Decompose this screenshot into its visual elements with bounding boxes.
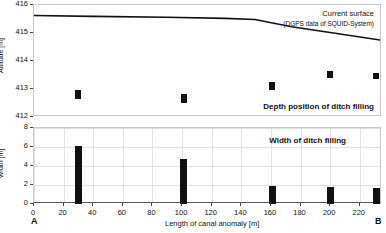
y-tickmark: [30, 184, 33, 185]
x-tick-label: 200: [315, 208, 343, 217]
x-tick-label: 180: [286, 208, 314, 217]
x-tick-label: 20: [49, 208, 77, 217]
annotation-depth-position: Depth position of ditch filling: [263, 102, 374, 111]
grid-line-vertical: [152, 128, 153, 202]
x-tick-label: 160: [256, 208, 284, 217]
grid-line-vertical: [123, 128, 124, 202]
x-tick-label: 120: [197, 208, 225, 217]
x-tick-label: 220: [345, 208, 373, 217]
bar: [269, 186, 276, 204]
x-tickmark: [240, 203, 241, 206]
x-tickmark: [270, 203, 271, 206]
x-tickmark: [181, 203, 182, 206]
y-tickmark: [30, 88, 33, 89]
y-tick-label: 4: [6, 160, 28, 169]
grid-line-vertical: [212, 128, 213, 202]
x-tickmark: [211, 203, 212, 206]
endpoint-label-a: A: [31, 216, 38, 226]
depth-marker: [373, 73, 379, 80]
grid-line-horizontal: [34, 166, 380, 167]
annotation-dgps-source: (DGPS data of SQUID-System): [283, 20, 374, 27]
bar: [327, 187, 334, 204]
y-tick-label: 0: [6, 198, 28, 207]
bar: [373, 188, 380, 204]
depth-marker: [269, 82, 275, 90]
y-tick-label: 413: [2, 83, 28, 92]
y-tick-label: 415: [2, 27, 28, 36]
altitude-chart-panel: Current surface (DGPS data of SQUID-Syst…: [33, 4, 381, 116]
bar: [180, 159, 187, 204]
x-tickmark: [151, 203, 152, 206]
x-tick-label: 80: [137, 208, 165, 217]
x-tick-label: 40: [78, 208, 106, 217]
y-axis-label-width: Width [m]: [0, 149, 4, 179]
y-tick-label: 2: [6, 179, 28, 188]
y-tick-label: 8: [6, 122, 28, 131]
x-tickmark: [359, 203, 360, 206]
annotation-current-surface: Current surface: [322, 9, 374, 18]
grid-line-vertical: [64, 128, 65, 202]
x-tickmark: [122, 203, 123, 206]
y-tick-label: 414: [2, 55, 28, 64]
y-tickmark: [30, 32, 33, 33]
x-tickmark: [33, 203, 34, 206]
y-tick-label: 6: [6, 141, 28, 150]
y-tickmark: [30, 127, 33, 128]
x-tick-label: 140: [226, 208, 254, 217]
grid-line-horizontal: [34, 147, 380, 148]
y-tickmark: [30, 60, 33, 61]
x-tickmark: [92, 203, 93, 206]
grid-line-horizontal: [34, 128, 380, 129]
y-tickmark: [30, 116, 33, 117]
figure-canal-anomaly-profile: Current surface (DGPS data of SQUID-Syst…: [0, 0, 386, 233]
x-tickmark: [300, 203, 301, 206]
grid-line-vertical: [241, 128, 242, 202]
depth-marker: [181, 94, 187, 103]
grid-line-vertical: [34, 128, 35, 202]
x-tickmark: [63, 203, 64, 206]
grid-line-horizontal: [34, 185, 380, 186]
y-tick-label: 412: [2, 111, 28, 120]
annotation-width-of-ditch: Width of ditch filling: [269, 136, 346, 145]
y-tickmark: [30, 146, 33, 147]
depth-marker: [327, 71, 333, 78]
width-chart-panel: Width of ditch filling: [33, 127, 381, 203]
bar: [75, 146, 82, 204]
y-tickmark: [30, 4, 33, 5]
depth-marker: [75, 90, 81, 99]
grid-line-vertical: [360, 128, 361, 202]
x-tick-label: 100: [167, 208, 195, 217]
y-tick-label: 416: [2, 0, 28, 8]
endpoint-label-b: B: [375, 216, 382, 226]
y-tickmark: [30, 165, 33, 166]
x-axis-label-length: Length of canal anomaly [m]: [165, 219, 259, 228]
grid-line-vertical: [93, 128, 94, 202]
x-tickmark: [329, 203, 330, 206]
x-tick-label: 60: [108, 208, 136, 217]
